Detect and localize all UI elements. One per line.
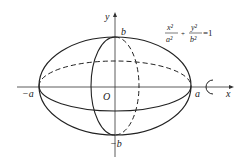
y-axis-arrow-icon <box>113 12 117 17</box>
eq-term2-numerator: y² <box>190 23 198 32</box>
point-a-label: a <box>195 88 200 99</box>
point-b-label: b <box>121 26 126 37</box>
ellipse-equation: x² a² + y² b² =1 <box>165 23 213 44</box>
eq-rhs: =1 <box>203 28 213 38</box>
eq-term2-denominator: b² <box>190 35 197 44</box>
point-neg-a-label: −a <box>22 88 34 99</box>
x-axis-label: x <box>225 88 231 99</box>
y-axis-label: y <box>104 11 110 22</box>
eq-term1-numerator: x² <box>166 23 174 32</box>
eq-plus: + <box>181 30 185 38</box>
ellipsoid-diagram: y x O b −b a −a x² a² + y² b² =1 <box>0 0 245 164</box>
origin-label: O <box>103 91 110 102</box>
meridian-front <box>91 37 115 135</box>
eq-term1-denominator: a² <box>166 35 173 44</box>
meridian-back <box>115 37 139 135</box>
point-neg-b-label: −b <box>110 138 122 149</box>
